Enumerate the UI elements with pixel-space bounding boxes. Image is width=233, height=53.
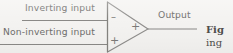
non-inverting-terminal-sign: + [110, 35, 119, 46]
inverting-terminal-sign: – [111, 12, 116, 22]
figure-caption-fragment: Fig ing [206, 23, 233, 49]
figure-caption-line-2: ing [206, 36, 233, 49]
non-inverting-input-label: Non-inverting input [3, 26, 95, 37]
scanned-figure: Inverting input Non-inverting input Outp… [0, 0, 233, 53]
apex-polarity-sign: + [131, 21, 140, 32]
figure-caption-line-1: Fig [206, 23, 233, 36]
output-label: Output [158, 9, 191, 20]
inverting-input-label: Inverting input [25, 2, 95, 13]
